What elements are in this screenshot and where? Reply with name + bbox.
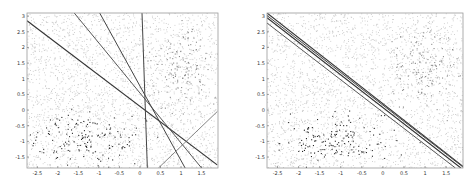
y-tick-label: 1.5	[17, 60, 25, 66]
x-tick-label: -2.5	[273, 170, 283, 176]
y-tick-label: 1	[262, 76, 265, 82]
y-tick-label: 3	[262, 13, 265, 19]
y-tick-label: 0	[22, 107, 25, 113]
y-tick-label: 2.5	[257, 29, 265, 35]
x-tick-label: -1	[338, 170, 343, 176]
y-tick-label: 1	[22, 76, 25, 82]
y-tick-label: 2.5	[17, 29, 25, 35]
plot-canvas-left: -2.5-2-1.5-1-0.500.511.532.521.510.50-0.…	[0, 0, 236, 185]
x-tick-label: 1	[423, 170, 426, 176]
y-tick-label: -1.5	[15, 154, 25, 160]
x-tick-label: -1.5	[73, 170, 83, 176]
x-tick-label: 0.5	[157, 170, 165, 176]
x-tick-label: 0.5	[400, 170, 408, 176]
y-tick-label: 0.5	[17, 91, 25, 97]
y-tick-label: 1.5	[257, 60, 265, 66]
x-tick-label: -1	[96, 170, 101, 176]
y-tick-label: -0.5	[255, 123, 265, 129]
y-tick-label: 3	[22, 13, 25, 19]
y-tick-label: 2	[22, 44, 25, 50]
y-tick-label: 0.5	[257, 91, 265, 97]
x-tick-label: -2.5	[32, 170, 42, 176]
x-tick-label: 1.5	[442, 170, 450, 176]
x-tick-label: 0	[381, 170, 384, 176]
y-tick-label: 0	[262, 107, 265, 113]
y-tick-label: -1	[260, 138, 265, 144]
scatter-plot-right: -2.5-2-1.5-1-0.500.511.532.521.510.50-0.…	[240, 0, 476, 185]
x-tick-label: 0	[138, 170, 141, 176]
y-tick-label: -0.5	[15, 123, 25, 129]
x-tick-label: -0.5	[115, 170, 125, 176]
x-tick-label: -0.5	[357, 170, 367, 176]
y-tick-label: 2	[262, 44, 265, 50]
x-tick-label: -2	[296, 170, 301, 176]
x-tick-label: 1	[179, 170, 182, 176]
y-tick-label: -1.5	[255, 154, 265, 160]
plot-canvas-right: -2.5-2-1.5-1-0.500.511.532.521.510.50-0.…	[240, 0, 476, 185]
x-tick-label: -1.5	[315, 170, 325, 176]
x-tick-label: 1.5	[198, 170, 206, 176]
scatter-plot-left: -2.5-2-1.5-1-0.500.511.532.521.510.50-0.…	[0, 0, 236, 185]
y-tick-label: -1	[20, 138, 25, 144]
x-tick-label: -2	[55, 170, 60, 176]
